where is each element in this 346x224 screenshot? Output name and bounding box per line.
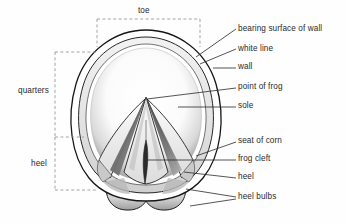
hoof-diagram-figure: bearing surface of wall white line wall … [0,0,346,224]
label-seat-of-corn: seat of corn [238,137,282,145]
label-white-line: white line [238,45,273,53]
label-bearing-surface-of-wall: bearing surface of wall [238,25,322,33]
label-frog-cleft: frog cleft [238,155,270,163]
label-heel-bulbs: heel bulbs [238,193,276,201]
label-wall: wall [238,63,253,71]
label-toe: toe [138,7,150,15]
leader-heel-bulbs-a [186,189,236,197]
leader-heel-bulbs-b [190,199,236,206]
hoof-drawing [0,0,346,224]
leader-bearing-surface-of-wall [196,29,236,57]
label-heel-right: heel [238,173,254,181]
label-sole: sole [238,102,253,110]
label-heel-left: heel [31,160,47,168]
leader-white-line [200,49,236,64]
label-quarters: quarters [18,87,49,95]
label-point-of-frog: point of frog [238,83,283,91]
